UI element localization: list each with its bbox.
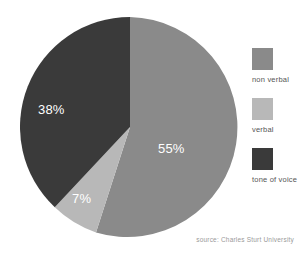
pie-chart: 55% 7% 38% xyxy=(20,17,240,237)
pie-label-tone-of-voice: 38% xyxy=(38,102,65,117)
chart-page: 55% 7% 38% non verbal verbal tone of voi… xyxy=(0,0,303,260)
legend-swatch-icon xyxy=(252,148,273,170)
legend-item-verbal[interactable]: verbal xyxy=(252,98,300,135)
legend-label-tone-of-voice: tone of voice xyxy=(252,175,300,185)
legend-item-tone-of-voice[interactable]: tone of voice xyxy=(252,148,300,185)
pie-label-non-verbal: 55% xyxy=(158,141,185,156)
legend-label-verbal: verbal xyxy=(252,125,300,135)
legend-swatch-icon xyxy=(252,48,273,70)
source-attribution: source: Charles Sturt University xyxy=(196,236,294,243)
legend-label-non-verbal: non verbal xyxy=(252,75,300,85)
pie-chart-svg xyxy=(20,17,240,237)
legend-swatch-icon xyxy=(252,98,273,120)
legend-item-non-verbal[interactable]: non verbal xyxy=(252,48,300,85)
pie-label-verbal: 7% xyxy=(72,191,91,206)
chart-legend: non verbal verbal tone of voice xyxy=(252,48,300,198)
